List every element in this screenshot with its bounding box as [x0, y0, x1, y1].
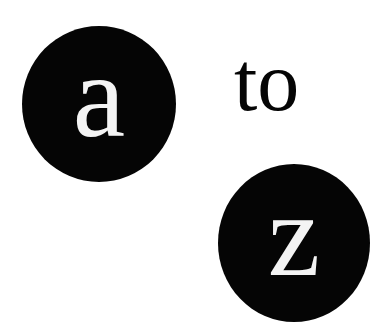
circle-z: z [218, 164, 370, 322]
circle-a: a [22, 26, 176, 182]
connector-word: to [234, 40, 299, 124]
a-to-z-graphic: a to z [0, 0, 390, 335]
letter-z: z [268, 177, 320, 295]
letter-a: a [73, 38, 125, 156]
